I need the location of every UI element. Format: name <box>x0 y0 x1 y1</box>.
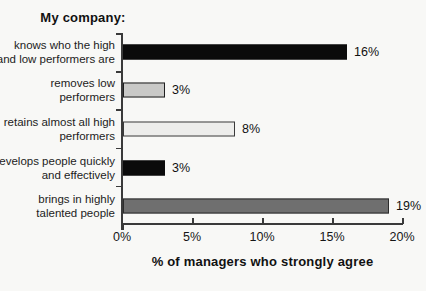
category-label: retains almost all high performers <box>0 115 115 143</box>
category-label: knows who the high and low performers ar… <box>0 38 115 66</box>
x-axis-tick <box>192 218 194 224</box>
category-label: removes low performers <box>0 76 115 104</box>
bar <box>123 45 347 60</box>
value-label: 8% <box>242 122 260 136</box>
x-axis-tick <box>262 218 264 224</box>
value-label: 3% <box>172 83 190 97</box>
y-axis-tick <box>116 148 122 150</box>
x-axis-tick <box>402 218 404 224</box>
chart-title: My company: <box>24 10 142 25</box>
y-axis-tick <box>116 109 122 111</box>
x-tick-label: 5% <box>170 230 214 244</box>
bar <box>123 161 165 176</box>
value-label: 3% <box>172 161 190 175</box>
y-axis-tick <box>116 71 122 73</box>
bar <box>123 83 165 98</box>
category-label: develops people quickly and effectively <box>0 154 115 182</box>
x-tick-label: 0% <box>100 230 144 244</box>
x-tick-label: 20% <box>380 230 424 244</box>
value-label: 19% <box>396 199 421 213</box>
x-tick-label: 15% <box>310 230 354 244</box>
x-axis-tick <box>332 218 334 224</box>
y-axis-tick <box>116 186 122 188</box>
bar <box>123 122 235 137</box>
x-axis-label: % of managers who strongly agree <box>122 254 403 269</box>
category-label: brings in highly talented people <box>0 192 115 220</box>
bar-chart: My company: knows who the high and low p… <box>0 0 426 291</box>
bar <box>123 199 389 214</box>
y-axis-tick <box>116 33 122 35</box>
x-tick-label: 10% <box>240 230 284 244</box>
value-label: 16% <box>354 45 379 59</box>
